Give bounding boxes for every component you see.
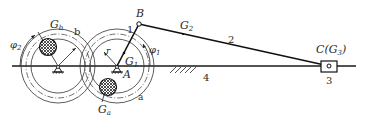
label-link-2: 2 <box>228 34 234 45</box>
label-slider-3: 3 <box>326 75 332 86</box>
label-b-gear: b <box>74 26 80 37</box>
slider-3 <box>321 61 337 72</box>
connecting-rod-2 <box>139 24 329 66</box>
mass-ga <box>100 79 117 96</box>
label-ground-4: 4 <box>203 72 209 83</box>
ground-hatch <box>170 67 196 73</box>
label-b-point: B <box>135 7 144 20</box>
mass-gb <box>40 39 57 56</box>
g1-point <box>123 52 126 55</box>
label-r: r <box>106 46 111 56</box>
joint-b <box>137 22 141 26</box>
label-crank-1: 1 <box>127 24 133 35</box>
label-ga: Ga <box>98 103 111 117</box>
mechanism-diagram: B 1 G2 2 C(G3) 3 4 A G1 r φ1 φ2 Gb b Ga … <box>0 0 365 118</box>
g2-point <box>182 33 184 35</box>
label-a-pivot: A <box>122 68 131 81</box>
label-phi2: φ2 <box>10 39 22 52</box>
label-a-gear: a <box>138 92 144 102</box>
label-g2: G2 <box>180 19 194 33</box>
label-gb: Gb <box>50 18 64 32</box>
label-c-g3: C(G3) <box>316 43 346 57</box>
label-phi1: φ1 <box>149 44 160 57</box>
label-g1: G1 <box>125 55 138 69</box>
